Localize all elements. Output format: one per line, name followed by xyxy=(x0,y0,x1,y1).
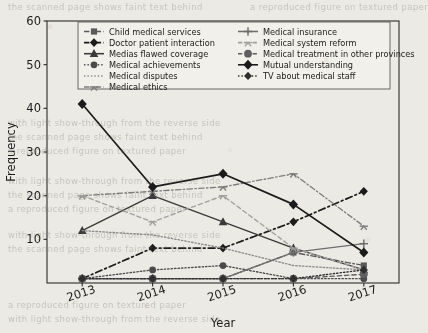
y-axis-tick-label: 10 xyxy=(26,232,41,246)
x-axis-tick-label: 2013 xyxy=(65,282,97,304)
x-axis-tick-label: 2017 xyxy=(346,282,378,304)
chart-legend: Child medical servicesMedical insuranceD… xyxy=(78,22,415,92)
legend-label: Medical insurance xyxy=(263,27,337,37)
y-axis-tick-label: 40 xyxy=(26,101,41,115)
series-medical-system-reform xyxy=(78,196,368,274)
x-axis-title: Year xyxy=(210,316,236,330)
legend-label: Medical achievements xyxy=(109,60,201,70)
y-axis-tick-label: 30 xyxy=(26,145,41,159)
legend-label: Doctor patient interaction xyxy=(109,38,215,48)
x-axis-tick-label: 2015 xyxy=(206,282,238,304)
series-medias-flawed-coverage xyxy=(78,191,368,273)
legend-entry[interactable]: Medical treatment in other provinces xyxy=(238,49,415,59)
legend-label: Child medical services xyxy=(109,27,201,37)
y-axis-tick-label: 20 xyxy=(26,189,41,203)
legend-label: Medical treatment in other provinces xyxy=(263,49,415,59)
y-axis-tick-label: 60 xyxy=(26,14,41,28)
legend-label: Medical system reform xyxy=(263,38,357,48)
legend-label: Medical disputes xyxy=(109,71,178,81)
legend-label: Medias flawed coverage xyxy=(109,49,208,59)
legend-label: Medical ethics xyxy=(109,82,167,92)
legend-label: TV about medical staff xyxy=(262,71,356,81)
legend-label: Mutual understanding xyxy=(263,60,353,70)
x-axis-tick-label: 2016 xyxy=(276,282,308,304)
x-axis-tick-label: 2014 xyxy=(135,282,167,304)
y-axis-tick-label: 50 xyxy=(26,58,41,72)
y-axis-title: Frequency xyxy=(4,122,18,182)
